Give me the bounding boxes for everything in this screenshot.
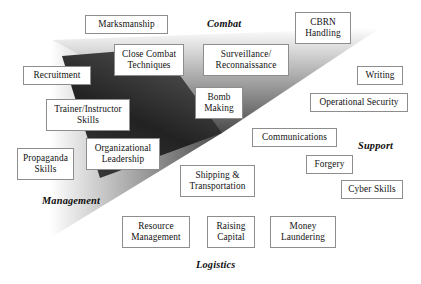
skill-box-surveillance-reconnaissance: Surveillance/ Reconnaissance bbox=[203, 44, 289, 76]
skill-box-forgery: Forgery bbox=[306, 155, 353, 174]
skill-box-close-combat-techniques: Close Combat Techniques bbox=[114, 44, 184, 76]
skill-box-writing: Writing bbox=[357, 66, 403, 85]
quadrant-label-management: Management bbox=[42, 195, 100, 206]
skill-box-trainer-instructor-skills: Trainer/Instructor Skills bbox=[46, 99, 130, 131]
skill-box-cyber-skills: Cyber Skills bbox=[341, 180, 403, 199]
skill-box-operational-security: Operational Security bbox=[310, 93, 408, 112]
skill-box-communications: Communications bbox=[252, 128, 337, 147]
skill-box-recruitment: Recruitment bbox=[23, 66, 91, 85]
quadrant-label-combat: Combat bbox=[207, 18, 241, 29]
skill-box-cbrn-handling: CBRN Handling bbox=[295, 12, 351, 44]
skill-box-organizational-leadership: Organizational Leadership bbox=[86, 138, 160, 170]
quadrant-label-support: Support bbox=[358, 140, 393, 151]
skill-box-shipping-transportation: Shipping & Transportation bbox=[180, 165, 255, 197]
quadrant-label-logistics: Logistics bbox=[196, 259, 236, 270]
skill-box-propaganda-skills: Propaganda Skills bbox=[17, 148, 74, 180]
skill-box-raising-capital: Raising Capital bbox=[207, 216, 255, 248]
skill-box-money-laundering: Money Laundering bbox=[270, 216, 336, 248]
skill-box-bomb-making: Bomb Making bbox=[195, 87, 243, 119]
skill-box-marksmanship: Marksmanship bbox=[85, 15, 168, 34]
skill-box-resource-management: Resource Management bbox=[122, 216, 190, 248]
skills-quadrant-diagram: Combat Support Logistics Management Mark… bbox=[0, 0, 421, 284]
